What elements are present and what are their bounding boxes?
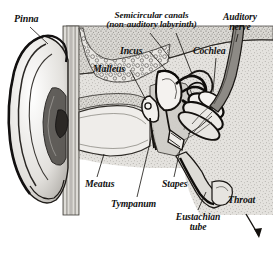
label-tympanum: Tympanum <box>111 199 156 209</box>
ear-anatomy-illustration <box>0 0 273 255</box>
label-throat: Throat <box>228 195 255 205</box>
label-auditory-line2: nerve <box>229 21 250 32</box>
label-meatus: Meatus <box>85 179 114 189</box>
pinna-shape <box>9 36 68 203</box>
ear-anatomy-figure: Pinna Semicircular canals (non-auditory … <box>0 0 273 255</box>
label-malleus: Malleus <box>93 64 125 74</box>
label-stapes: Stapes <box>162 179 188 189</box>
label-eustachian-line2: tube <box>190 221 207 232</box>
label-cochlea: Cochlea <box>193 46 226 56</box>
label-auditory-nerve: Auditory nerve <box>212 12 268 32</box>
throat-direction-arrow <box>246 214 262 238</box>
auditory-meatus <box>79 94 152 157</box>
label-semicircular-line2: (non-auditory labyrinth) <box>106 19 196 29</box>
label-pinna: Pinna <box>14 14 39 24</box>
label-eustachian-tube: Eustachian tube <box>167 212 229 232</box>
label-semicircular-canals: Semicircular canals (non-auditory labyri… <box>99 11 204 30</box>
label-incus: Incus <box>120 46 142 56</box>
